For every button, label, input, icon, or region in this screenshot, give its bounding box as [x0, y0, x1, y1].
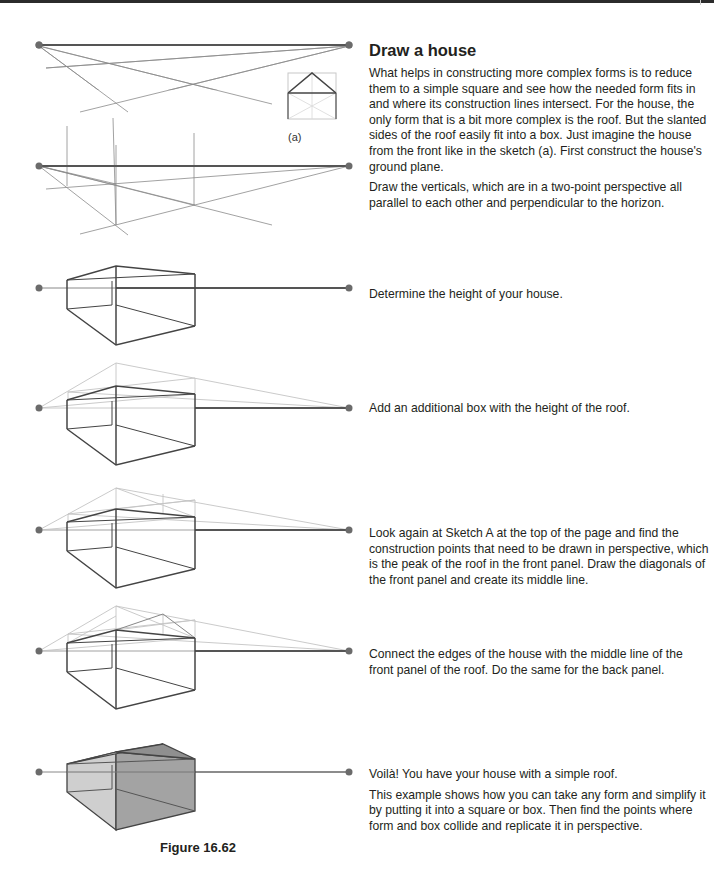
vanishing-point-right — [346, 405, 353, 412]
vanishing-point-left — [36, 769, 43, 776]
step-paragraph: Connect the edges of the house with the … — [369, 647, 709, 678]
vanishing-point-right — [346, 42, 353, 49]
step-connect-edges-text: Connect the edges of the house with the … — [369, 647, 709, 683]
step-paragraph: Voilà! You have your house with a simple… — [369, 767, 709, 783]
page-title: Draw a house — [369, 41, 476, 60]
step-paragraph: Determine the height of your house. — [369, 287, 709, 303]
vanishing-point-right — [346, 769, 353, 776]
vanishing-point-left — [36, 163, 43, 170]
step-height-text: Determine the height of your house. — [369, 287, 709, 308]
step-paragraph: Look again at Sketch A at the top of the… — [369, 526, 709, 588]
vanishing-point-right — [346, 648, 353, 655]
vanishing-point-left — [36, 405, 43, 412]
step-ground-plane-text: What helps in constructing more complex … — [369, 66, 709, 216]
vanishing-point-right — [346, 163, 353, 170]
step-paragraph: Add an additional box with the height of… — [369, 401, 709, 417]
vanishing-point-right — [346, 527, 353, 534]
vanishing-point-left — [36, 285, 43, 292]
sketch-roof-box — [0, 360, 360, 470]
step-construction-points-text: Look again at Sketch A at the top of the… — [369, 526, 709, 593]
page-top-border — [0, 0, 714, 3]
figure-caption: Figure 16.62 — [160, 840, 236, 855]
step-paragraph: This example shows how you can take any … — [369, 788, 709, 835]
vanishing-point-left — [36, 648, 43, 655]
vanishing-point-left — [36, 42, 43, 49]
page-edge-mark — [700, 0, 701, 5]
step-finished-text: Voilà! You have your house with a simple… — [369, 767, 709, 839]
sketch-construction-points — [0, 485, 360, 595]
sketch-height — [0, 260, 360, 375]
vanishing-point-left — [36, 527, 43, 534]
step-roof-box-text: Add an additional box with the height of… — [369, 401, 709, 422]
sketch-verticals — [0, 115, 360, 240]
sketch-connect-edges — [0, 605, 360, 715]
sketch-finished-house — [0, 730, 360, 835]
sketch-a-house-front — [287, 72, 337, 120]
step-paragraph: What helps in constructing more complex … — [369, 66, 709, 175]
vanishing-point-right — [346, 285, 353, 292]
step-paragraph: Draw the verticals, which are in a two-p… — [369, 180, 709, 211]
